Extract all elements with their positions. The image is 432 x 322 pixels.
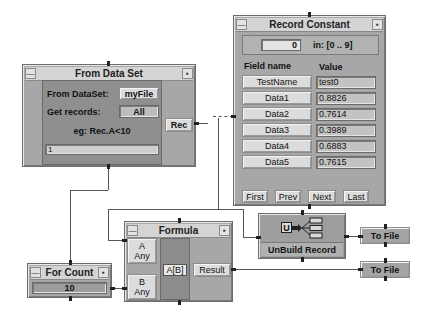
field-name-button[interactable]: Data3 <box>242 123 312 137</box>
rec-output-connector[interactable] <box>194 122 199 125</box>
field-value-input[interactable]: 0.8826 <box>316 92 376 105</box>
wire-fromdataset-to-forcount-1 <box>108 166 109 190</box>
formula-a-connector[interactable] <box>122 239 127 242</box>
for-count-value: 10 <box>64 283 74 293</box>
dataset-label: From DataSet: <box>47 89 109 99</box>
record-constant-window[interactable]: — Record Constant ▪ 0 in: [0 .. 9] Field… <box>233 15 386 206</box>
record-index-panel: 0 in: [0 .. 9] <box>242 35 379 55</box>
u-letter: U <box>283 223 290 233</box>
unbuild-record-label: UnBuild Record <box>261 242 343 256</box>
formula-b-connector[interactable] <box>122 287 127 290</box>
formula-bottom-pin[interactable] <box>178 300 181 305</box>
from-data-set-window[interactable]: — From Data Set ▪ From DataSet: myFile G… <box>22 64 196 167</box>
for-count-bottom-pin[interactable] <box>69 296 72 301</box>
wire-rec-left <box>108 209 218 210</box>
unbuild-input-connector[interactable] <box>256 236 261 239</box>
from-data-set-body: From DataSet: myFile Get records: All eg… <box>42 80 162 165</box>
unbuild-top-pin[interactable] <box>301 210 304 215</box>
record-constant-left-pin[interactable] <box>231 115 236 118</box>
field-value-input[interactable]: 0.3989 <box>316 124 376 137</box>
from-data-set-bottom-pin[interactable] <box>107 164 110 169</box>
formula-top-pin[interactable] <box>178 218 181 223</box>
formula-expression-panel: A[B] <box>160 238 190 300</box>
resize-icon[interactable]: ▪ <box>182 68 193 79</box>
records-button[interactable]: All <box>119 105 159 118</box>
window-title: Formula <box>138 225 219 236</box>
record-range-text: in: [0 .. 9] <box>313 40 353 50</box>
input-b-pin[interactable]: B Any <box>127 274 157 300</box>
input-a-pin[interactable]: A Any <box>127 238 157 264</box>
input-b-type: Any <box>134 287 150 297</box>
wire-fromdataset-to-forcount-2 <box>70 190 108 191</box>
col-header-value: Value <box>319 62 343 72</box>
prev-button[interactable]: Prev <box>275 190 301 203</box>
result-output-pin[interactable]: Result <box>193 263 231 277</box>
resize-icon[interactable]: ▪ <box>219 225 230 236</box>
record-index-value: 0 <box>292 40 297 50</box>
record-constant-top-pin[interactable] <box>308 12 311 17</box>
field-value-input[interactable]: 0.7614 <box>316 108 376 121</box>
next-button[interactable]: Next <box>308 190 336 203</box>
field-value-input[interactable]: test0 <box>316 76 376 89</box>
field-name-button[interactable]: Data2 <box>242 107 312 121</box>
window-title: Record Constant <box>247 19 372 30</box>
last-button[interactable]: Last <box>343 190 369 203</box>
first-button[interactable]: First <box>242 190 268 203</box>
for-count-window[interactable]: — For Count ▪ 10 <box>27 263 112 298</box>
unbuild-record-object[interactable]: U UnBuild Record <box>258 213 346 259</box>
rec-output-pin[interactable]: Rec <box>165 118 193 132</box>
to-file-1-label: To File <box>371 231 399 241</box>
for-count-top-pin[interactable] <box>69 260 72 265</box>
field-name-button[interactable]: TestName <box>242 75 312 89</box>
formula-titlebar[interactable]: — Formula ▪ <box>127 224 230 238</box>
field-name-button[interactable]: Data5 <box>242 155 312 169</box>
to-file-2-input-connector[interactable] <box>358 268 363 271</box>
field-name-button[interactable]: Data1 <box>242 91 312 105</box>
for-count-titlebar[interactable]: — For Count ▪ <box>30 266 109 280</box>
record-index-input[interactable]: 0 <box>261 39 301 51</box>
to-file-2-top-pin[interactable] <box>384 258 387 263</box>
wire-fromdataset-to-forcount-3 <box>70 190 71 263</box>
field-name-button[interactable]: Data4 <box>242 139 312 153</box>
from-data-set-titlebar[interactable]: — From Data Set ▪ <box>25 67 193 81</box>
for-count-output-connector[interactable] <box>110 287 115 290</box>
dataset-button[interactable]: myFile <box>119 87 159 100</box>
wire-to-unbuild-down <box>243 209 244 237</box>
minimize-icon[interactable]: — <box>25 68 36 79</box>
formula-result-connector[interactable] <box>231 268 236 271</box>
minimize-icon[interactable]: — <box>127 225 138 236</box>
from-data-set-top-pin[interactable] <box>107 61 110 66</box>
expression-value: 1 <box>48 145 52 154</box>
wire-rec-down <box>218 118 219 210</box>
field-value-input[interactable]: 0.7615 <box>316 156 376 169</box>
to-file-2-label: To File <box>371 265 399 275</box>
unbuild-output-connector[interactable] <box>344 235 349 238</box>
example-text: eg: Rec.A<10 <box>43 126 161 136</box>
to-file-1-input-connector[interactable] <box>358 235 363 238</box>
wire-rec-to-recordconstant <box>213 116 233 117</box>
resize-icon[interactable]: ▪ <box>98 267 109 278</box>
formula-expression[interactable]: A[B] <box>163 264 187 276</box>
for-count-input[interactable]: 10 <box>32 282 107 294</box>
to-file-1-bottom-pin[interactable] <box>384 242 387 247</box>
record-constant-bottom-pin[interactable] <box>308 204 311 209</box>
minimize-icon[interactable]: — <box>30 267 41 278</box>
input-a-type: Any <box>134 251 150 261</box>
input-a-name: A <box>139 241 145 251</box>
u-box-icon: U <box>281 222 292 233</box>
split-arrow-icon <box>292 217 325 239</box>
record-constant-titlebar[interactable]: — Record Constant ▪ <box>236 18 383 32</box>
unbuild-icon: U <box>281 217 325 239</box>
minimize-icon[interactable]: — <box>236 19 247 30</box>
window-title: For Count <box>41 267 98 278</box>
input-b-name: B <box>139 277 145 287</box>
field-value-input[interactable]: 0.6883 <box>316 140 376 153</box>
wire-result-to-tofile2 <box>233 269 360 270</box>
to-file-2-bottom-pin[interactable] <box>384 276 387 281</box>
formula-window[interactable]: — Formula ▪ A Any B Any A[B] Result <box>124 221 233 302</box>
col-header-field: Field name <box>244 61 291 71</box>
unbuild-bottom-pin[interactable] <box>301 257 304 262</box>
resize-icon[interactable]: ▪ <box>372 19 383 30</box>
to-file-1-top-pin[interactable] <box>384 224 387 229</box>
expression-input[interactable]: 1 <box>45 144 159 155</box>
